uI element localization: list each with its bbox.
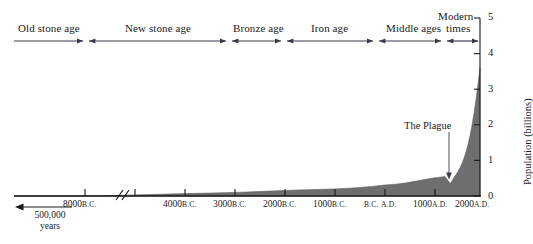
x-axis-ticks	[85, 189, 435, 196]
xtick-8000-bc-value: 8000	[63, 199, 82, 209]
xtick-2000-ad-value: 2000	[455, 199, 474, 209]
ytick-0: 0	[488, 190, 493, 201]
xtick-3000-bc-value: 3000	[213, 199, 232, 209]
xtick-1000-bc: 1000B.C.	[313, 199, 347, 209]
span-label-line2: years	[40, 221, 60, 231]
xtick-1000-ad: 1000A.D.	[413, 199, 447, 209]
xtick-1000-bc-era: B.C.	[332, 200, 347, 209]
xtick-bc-ad-ad: A.D.	[381, 200, 396, 209]
xtick-bc-ad: B.C. A.D.	[364, 199, 396, 209]
ytick-1: 1	[488, 154, 493, 165]
xtick-3000-bc-era: B.C.	[232, 200, 247, 209]
xtick-4000-bc-value: 4000	[163, 199, 182, 209]
ytick-4: 4	[488, 47, 493, 58]
x-axis-break-mark	[116, 190, 129, 200]
xtick-2000-ad-era: A.D.	[474, 200, 489, 209]
ytick-3: 3	[488, 83, 493, 94]
xtick-4000-bc-era: B.C.	[182, 200, 197, 209]
xtick-8000-bc: 8000B.C.	[63, 199, 97, 209]
xtick-1000-ad-value: 1000	[413, 199, 432, 209]
annotation-the-plague: The Plague	[404, 120, 452, 131]
xtick-1000-bc-value: 1000	[313, 199, 332, 209]
xtick-2000-bc: 2000B.C.	[263, 199, 297, 209]
xtick-2000-bc-value: 2000	[263, 199, 282, 209]
xtick-1000-ad-era: A.D.	[432, 200, 447, 209]
xtick-bc-ad-bc: B.C.	[364, 200, 379, 209]
xtick-2000-bc-era: B.C.	[282, 200, 297, 209]
xtick-2000-ad: 2000A.D.	[455, 199, 489, 209]
span-label-500000-years: 500,000 years	[14, 210, 86, 232]
xtick-8000-bc-era: B.C.	[82, 200, 97, 209]
xtick-3000-bc: 3000B.C.	[213, 199, 247, 209]
xtick-4000-bc: 4000B.C.	[163, 199, 197, 209]
y-axis-title: Population (billions)	[522, 98, 533, 185]
ytick-5: 5	[488, 11, 493, 22]
span-label-line1: 500,000	[35, 210, 66, 220]
ytick-2: 2	[488, 118, 493, 129]
